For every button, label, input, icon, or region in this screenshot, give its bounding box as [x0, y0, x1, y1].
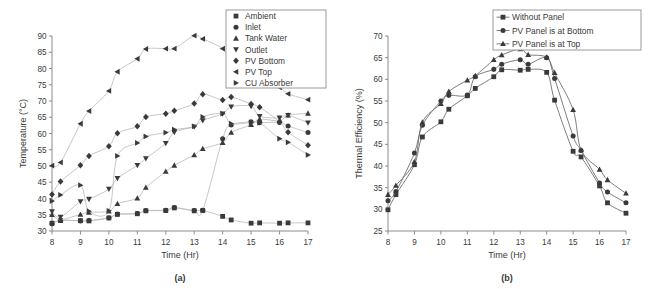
legend-label: Ambient	[245, 11, 276, 21]
data-point	[171, 46, 176, 52]
data-point	[305, 142, 311, 148]
data-point	[473, 86, 478, 91]
data-point	[228, 94, 234, 100]
svg-text:14: 14	[218, 238, 228, 247]
legend-label: Outlet	[245, 45, 268, 55]
data-point	[624, 211, 629, 216]
data-point	[78, 182, 83, 188]
svg-text:13: 13	[516, 238, 526, 247]
legend-marker-circle	[500, 28, 505, 33]
svg-text:65: 65	[373, 54, 383, 63]
data-point	[385, 198, 390, 203]
svg-text:9: 9	[412, 238, 417, 247]
data-point	[171, 108, 177, 114]
data-point	[163, 46, 168, 52]
data-point	[229, 218, 234, 223]
data-point	[134, 195, 140, 200]
data-point	[135, 211, 140, 216]
data-point	[465, 92, 470, 97]
legend-item[interactable]: PV Panel is at Bottom	[497, 26, 594, 36]
data-point	[526, 62, 531, 67]
svg-text:90: 90	[37, 32, 47, 41]
data-point	[257, 220, 262, 225]
axes: 25303540455055606570891011121314151617Ti…	[354, 32, 631, 260]
data-point	[78, 218, 83, 223]
data-point	[249, 221, 254, 226]
data-point	[525, 52, 531, 57]
svg-text:40: 40	[373, 162, 383, 171]
data-point	[257, 104, 263, 110]
data-point	[597, 180, 602, 185]
svg-text:65: 65	[37, 113, 47, 122]
svg-text:13: 13	[190, 238, 200, 247]
legend-label: PV Panel is at Top	[512, 39, 581, 49]
chart-panel-b: 25303540455055606570891011121314151617Ti…	[330, 0, 650, 289]
legend-label: PV Panel is at Bottom	[512, 26, 593, 36]
data-point	[134, 56, 139, 62]
svg-text:11: 11	[463, 238, 472, 247]
data-point	[499, 67, 504, 72]
svg-text:15: 15	[247, 238, 257, 247]
data-point	[393, 189, 398, 194]
data-point	[192, 208, 197, 213]
data-point	[106, 88, 111, 94]
svg-text:16: 16	[595, 238, 605, 247]
data-point	[491, 57, 497, 62]
legend-label: Without Panel	[512, 12, 564, 22]
data-point	[200, 208, 205, 213]
data-point	[106, 215, 111, 220]
data-point	[438, 119, 443, 124]
data-point	[143, 114, 149, 120]
data-point	[114, 69, 119, 75]
svg-text:85: 85	[37, 48, 47, 57]
svg-text:17: 17	[303, 238, 313, 247]
data-point	[306, 220, 311, 225]
data-point	[49, 221, 54, 226]
data-point	[286, 220, 291, 225]
data-point	[86, 218, 91, 223]
svg-text:80: 80	[37, 65, 47, 74]
data-point	[305, 120, 311, 125]
svg-text:60: 60	[373, 75, 383, 84]
svg-text:14: 14	[542, 238, 552, 247]
data-point	[386, 207, 391, 212]
svg-text:15: 15	[569, 238, 579, 247]
svg-text:10: 10	[104, 238, 114, 247]
svg-text:16: 16	[275, 238, 285, 247]
svg-text:35: 35	[37, 211, 47, 220]
data-point	[605, 189, 610, 194]
data-point	[623, 190, 629, 195]
data-point	[491, 74, 496, 79]
svg-text:17: 17	[621, 238, 631, 247]
data-point	[446, 107, 451, 112]
series-tank-water	[49, 110, 311, 222]
data-point	[58, 192, 63, 198]
panel-caption: (b)	[501, 273, 513, 283]
svg-text:45: 45	[37, 178, 47, 187]
data-point	[134, 163, 140, 168]
svg-text:30: 30	[373, 205, 383, 214]
data-point	[200, 36, 205, 42]
plot-area	[385, 46, 629, 216]
chart-panel-a: 3035404550556065707580859089101112131415…	[0, 0, 330, 289]
data-point	[552, 98, 557, 103]
svg-text:25: 25	[373, 227, 383, 236]
svg-text:12: 12	[161, 238, 171, 247]
data-point	[286, 124, 291, 129]
data-point	[277, 136, 282, 142]
data-point	[143, 208, 148, 213]
data-point	[306, 152, 311, 158]
data-point	[518, 68, 523, 73]
svg-text:70: 70	[373, 32, 383, 41]
data-point	[579, 155, 584, 160]
x-axis-label: Time (Hr)	[161, 250, 199, 260]
data-point	[305, 130, 310, 135]
legend-marker-square	[501, 15, 506, 20]
data-point	[77, 121, 82, 127]
data-point	[228, 105, 234, 110]
chart-a-svg: 3035404550556065707580859089101112131415…	[0, 0, 330, 289]
legend-label: Tank Water	[245, 33, 287, 43]
series-pv-bottom	[49, 91, 311, 198]
data-point	[163, 169, 169, 174]
data-point	[571, 149, 576, 154]
